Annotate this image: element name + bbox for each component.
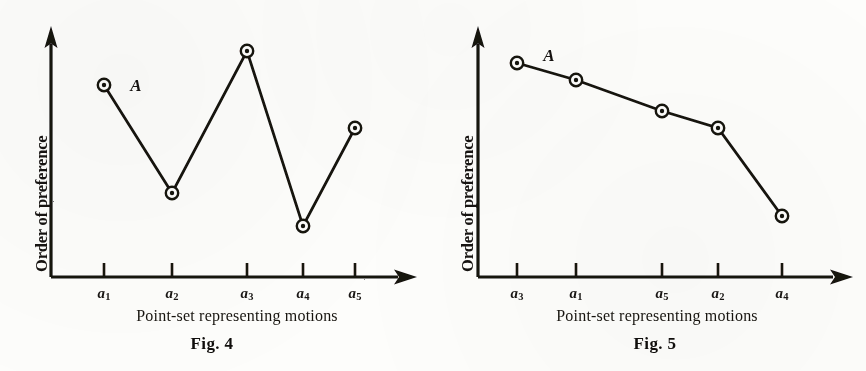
x-axis-label: Point-set representing motions — [556, 307, 758, 325]
data-point-a2 — [166, 187, 178, 199]
x-tick-label-a1: a1 — [569, 285, 582, 302]
series-a-polyline — [517, 63, 782, 216]
x-axis — [51, 270, 417, 285]
data-point-a5 — [349, 122, 361, 134]
x-axis — [478, 270, 853, 285]
figure-caption: Fig. 4 — [190, 334, 233, 354]
x-tick-label-a5: a5 — [348, 285, 361, 302]
data-point-a3 — [511, 57, 523, 69]
series-label-a: A — [543, 46, 554, 66]
x-tick-label-a1: a1 — [97, 285, 110, 302]
data-point-a4 — [297, 220, 309, 232]
figure-caption: Fig. 5 — [633, 334, 676, 354]
x-axis-ticks — [517, 263, 782, 277]
y-axis-label: Order of preference — [32, 136, 52, 272]
x-tick-label-a2: a2 — [711, 285, 724, 302]
figure-4: Order of preference A a1 a2 a3 a4 a5 Poi… — [0, 0, 433, 371]
x-tick-label-a2: a2 — [165, 285, 178, 302]
data-point-markers — [511, 57, 788, 222]
x-tick-label-a4: a4 — [296, 285, 309, 302]
data-point-a5 — [656, 105, 668, 117]
data-point-a4 — [776, 210, 788, 222]
x-axis-label: Point-set representing motions — [136, 307, 338, 325]
figure-5: Order of preference A a3 a1 a5 a2 a4 Poi… — [433, 0, 866, 371]
series-label-a: A — [130, 76, 141, 96]
x-tick-label-a4: a4 — [775, 285, 788, 302]
x-tick-label-a5: a5 — [655, 285, 668, 302]
data-point-a2 — [712, 122, 724, 134]
x-tick-label-a3: a3 — [240, 285, 253, 302]
data-point-a1 — [570, 74, 582, 86]
scanned-figure-page: Order of preference A a1 a2 a3 a4 a5 Poi… — [0, 0, 866, 371]
x-tick-label-a3: a3 — [510, 285, 523, 302]
x-axis-ticks — [104, 263, 355, 277]
data-point-a3 — [241, 45, 253, 57]
y-axis-label: Order of preference — [458, 136, 478, 272]
data-point-a1 — [98, 79, 110, 91]
